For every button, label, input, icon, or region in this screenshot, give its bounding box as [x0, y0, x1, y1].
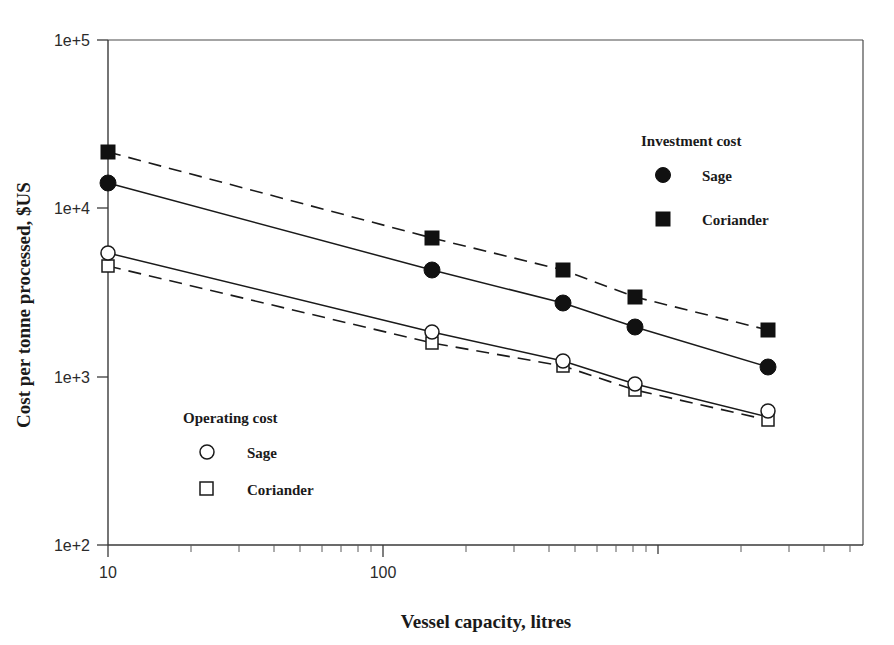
legend-marker-open-square-icon [200, 482, 213, 495]
legend-operating-title: Operating cost [183, 410, 278, 426]
legend-investment-coriander-label: Coriander [702, 212, 769, 228]
data-point [556, 354, 570, 368]
data-point [761, 323, 775, 337]
legend-marker-open-circle-icon [200, 445, 214, 459]
data-point [760, 359, 776, 375]
y-tick-label-1e2: 1e+2 [54, 537, 90, 554]
chart-figure: 1e+5 1e+4 1e+3 1e+2 [0, 0, 894, 645]
data-point [628, 377, 642, 391]
legend-operating-coriander-label: Coriander [247, 482, 314, 498]
y-tick-label-1e5: 1e+5 [54, 32, 90, 49]
data-point [628, 290, 642, 304]
data-point [555, 295, 571, 311]
data-point [101, 246, 115, 260]
x-tick-label-10: 10 [99, 564, 117, 581]
legend-investment-title: Investment cost [641, 133, 741, 149]
legend-operating-sage-label: Sage [247, 445, 277, 461]
legend-marker-filled-square-icon [656, 212, 670, 226]
y-axis-label: Cost per tonne processed, $US [13, 182, 34, 428]
data-point [425, 325, 439, 339]
x-tick-label-100: 100 [370, 564, 397, 581]
data-point [761, 404, 775, 418]
y-tick-label-1e4: 1e+4 [54, 200, 90, 217]
data-point [101, 145, 115, 159]
legend-marker-filled-circle-icon [656, 168, 671, 183]
data-point [100, 175, 116, 191]
x-axis-label: Vessel capacity, litres [401, 611, 571, 632]
chart-background [0, 0, 894, 645]
chart-svg: 1e+5 1e+4 1e+3 1e+2 [0, 0, 894, 645]
data-point [627, 319, 643, 335]
data-point [556, 263, 570, 277]
data-point [102, 260, 114, 272]
data-point [425, 231, 439, 245]
data-point [424, 262, 440, 278]
y-tick-label-1e3: 1e+3 [54, 369, 90, 386]
legend-investment-sage-label: Sage [702, 168, 732, 184]
